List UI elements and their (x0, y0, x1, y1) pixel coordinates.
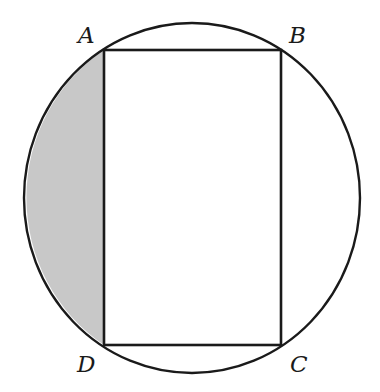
shaded-segment (26, 50, 104, 345)
label-d: D (76, 351, 95, 377)
label-c: C (290, 351, 308, 377)
label-a: A (76, 22, 95, 48)
label-b: B (288, 22, 306, 48)
rectangle-abcd (104, 50, 281, 345)
geometry-diagram: A B C D (0, 0, 380, 392)
